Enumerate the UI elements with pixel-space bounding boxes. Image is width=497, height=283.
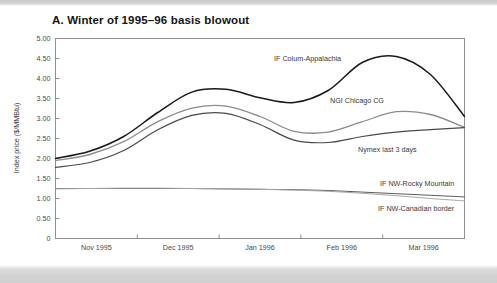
series-line	[56, 56, 465, 159]
x-tick-label: Nov 1995	[81, 243, 112, 252]
x-tick-label: Mar 1996	[408, 243, 438, 252]
series-label: IF NW-Rocky Mountain	[380, 179, 454, 188]
y-tick-label: 3.50	[37, 94, 51, 103]
series-annotations: IF Colum-AppalachiaNGI Chicago CGNymex l…	[274, 54, 455, 213]
series-label: NGI Chicago CG	[330, 96, 384, 105]
y-tick-label: 5.00	[37, 34, 51, 43]
series-label: Nymex last 3 days	[358, 145, 417, 154]
x-axis: Nov 1995Dec 1995Jan 1996Feb 1996Mar 1996	[81, 235, 439, 252]
y-tick-label: 3.00	[37, 114, 51, 123]
y-axis-title: Index price ($/MMBtu)	[12, 103, 21, 174]
y-tick-label: 2.00	[37, 154, 51, 163]
series-label: IF NW-Canadian border	[378, 204, 455, 213]
x-tick-label: Jan 1996	[245, 243, 275, 252]
y-tick-label: 1.50	[37, 174, 51, 183]
figure-panel: A. Winter of 1995–96 basis blowout 00.50…	[0, 0, 497, 283]
line-chart: 00.501.001.502.002.503.003.504.004.505.0…	[0, 0, 497, 283]
y-tick-label: 4.50	[37, 54, 51, 63]
y-tick-label: 0.50	[37, 214, 51, 223]
y-tick-label: 4.00	[37, 74, 51, 83]
x-tick-label: Dec 1995	[163, 243, 194, 252]
y-tick-label: 2.50	[37, 134, 51, 143]
y-tick-label: 1.00	[37, 194, 51, 203]
y-tick-label: 0	[47, 234, 51, 243]
bottom-band	[0, 265, 497, 283]
y-axis: 00.501.001.502.002.503.003.504.004.505.0…	[37, 34, 60, 243]
series-label: IF Colum-Appalachia	[274, 54, 341, 63]
x-tick-label: Feb 1996	[327, 243, 357, 252]
